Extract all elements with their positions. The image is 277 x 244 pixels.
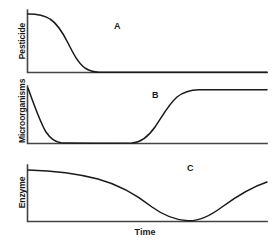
multi-panel-chart-svg	[0, 0, 277, 244]
panel-b-axes	[28, 86, 268, 144]
panel-c-letter: C	[187, 163, 194, 173]
panel-a	[28, 10, 268, 73]
panel-c-curve-enzyme	[28, 170, 267, 221]
panel-b-letter: B	[152, 90, 159, 100]
figure-container: Pesticide Microorganisms Enzyme A B C Ti…	[0, 0, 277, 244]
xaxis-label-time: Time	[115, 227, 175, 237]
panel-a-letter: A	[114, 21, 121, 31]
panel-a-ylabel: Pesticide	[17, 10, 27, 72]
panel-b	[28, 86, 268, 144]
panel-c	[28, 165, 268, 222]
panel-c-axes	[28, 165, 268, 222]
panel-b-ylabel: Microorganisms	[17, 85, 27, 143]
panel-a-curve-pesticide	[28, 14, 267, 72]
panel-b-curve-microorganisms	[28, 88, 267, 143]
panel-c-ylabel: Enzyme	[17, 164, 27, 221]
panel-a-axes	[28, 10, 268, 73]
